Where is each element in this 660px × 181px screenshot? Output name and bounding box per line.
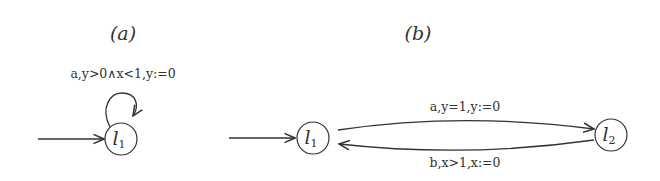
diagram-a: (a) a,y>0∧x<1,y:=0 l1 bbox=[38, 22, 176, 155]
caption-b: (b) bbox=[405, 22, 432, 44]
edge-l1-to-l2-label: a,y=1,y:=0 bbox=[430, 99, 501, 114]
edge-l2-to-l1-label: b,x>1,x:=0 bbox=[429, 155, 500, 170]
caption-a: (a) bbox=[110, 22, 136, 44]
self-loop-edge bbox=[106, 93, 136, 127]
edge-l1-to-l2 bbox=[338, 121, 594, 130]
self-loop-label: a,y>0∧x<1,y:=0 bbox=[70, 66, 175, 81]
diagram-b: (b) a,y=1,y:=0 b,x>1,x:=0 l1 l2 bbox=[229, 22, 627, 170]
node-a-l1: l1 bbox=[105, 123, 137, 155]
edge-l2-to-l1 bbox=[339, 140, 594, 150]
node-b-l1: l1 bbox=[297, 122, 329, 154]
node-b-l2: l2 bbox=[595, 119, 627, 151]
automata-figure: (a) a,y>0∧x<1,y:=0 l1 (b) a,y=1,y:=0 b,x… bbox=[0, 0, 660, 181]
